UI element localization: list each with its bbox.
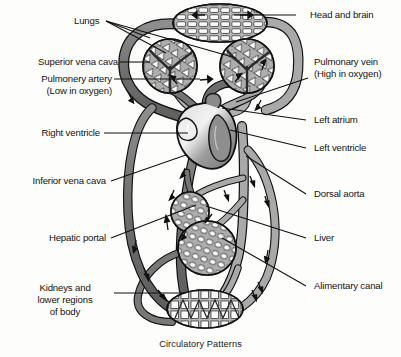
figure-canvas: Lungs Superior vena cava Pulmonery arter… [0, 0, 401, 357]
label-liver: Liver [314, 232, 334, 244]
label-kidneys-line3: of body [20, 306, 110, 318]
left-lung-capillary-bed [143, 39, 197, 96]
label-right-ventricle: Right ventricle [6, 127, 100, 139]
label-alimentary-canal: Alimentary canal [314, 280, 383, 292]
label-left-atrium: Left atrium [314, 114, 358, 126]
head-and-brain-capillary-bed [173, 4, 267, 42]
figure-caption: Circulatory Patterns [0, 339, 401, 349]
label-kidneys-line2: lower regions [20, 294, 110, 306]
label-lungs: Lungs [74, 15, 99, 27]
label-pulmonary-vein-oxygen: (High in oxygen) [314, 68, 381, 80]
label-kidneys-line1: Kidneys and [20, 282, 110, 294]
label-pulmonary-vein: Pulmonary vein [314, 56, 378, 68]
label-inferior-vena-cava: Inferior vena cava [6, 175, 106, 187]
kidneys-capillary-bed [167, 290, 243, 328]
label-superior-vena-cava: Superior vena cava [6, 56, 118, 68]
label-dorsal-aorta: Dorsal aorta [314, 188, 364, 200]
alimentary-canal-capillary-bed [178, 221, 236, 275]
label-left-ventricle: Left ventricle [314, 142, 366, 154]
label-pulmonary-artery-oxygen: (Low in oxygen) [6, 85, 112, 97]
label-hepatic-portal: Hepatic portal [6, 232, 106, 244]
label-pulmonary-artery: Pulmonery artery [6, 73, 112, 85]
label-head-and-brain: Head and brain [310, 9, 374, 21]
